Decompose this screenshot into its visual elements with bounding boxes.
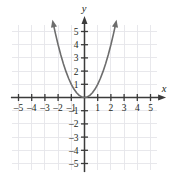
y-tick-label: 2 — [74, 67, 79, 77]
x-axis-label: x — [161, 83, 167, 94]
y-tick-label: 4 — [74, 40, 79, 50]
y-axis-label: y — [81, 3, 87, 14]
y-tick-label: –1 — [68, 106, 79, 116]
graph-figure: –5–4–3–2–112345 –5–4–3–2–112345 x y — [0, 0, 175, 181]
y-tick-label: 3 — [74, 53, 79, 63]
y-tick-label: –4 — [68, 146, 79, 156]
y-tick-label: 5 — [74, 27, 79, 37]
chart-background — [0, 0, 175, 181]
y-tick-label: –5 — [68, 159, 79, 169]
x-tick-label: 2 — [109, 103, 114, 113]
x-tick-label: –3 — [39, 103, 50, 113]
x-tick-label: –2 — [52, 103, 63, 113]
x-tick-label: –5 — [13, 103, 24, 113]
coordinate-plane-chart: –5–4–3–2–112345 –5–4–3–2–112345 x y — [0, 0, 175, 181]
x-tick-label: –4 — [26, 103, 37, 113]
y-tick-label: 1 — [74, 80, 79, 90]
y-tick-label: –2 — [68, 119, 79, 129]
y-tick-label: –3 — [68, 133, 79, 143]
x-tick-label: 5 — [148, 103, 153, 113]
x-tick-label: 3 — [122, 103, 127, 113]
x-tick-label: 1 — [95, 103, 100, 113]
x-tick-label: 4 — [135, 103, 140, 113]
